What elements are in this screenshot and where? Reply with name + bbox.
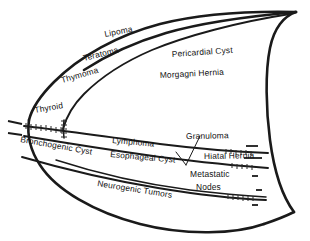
label-metastatic-nodes-line2: Nodes [196,182,221,192]
label-esophageal-cyst: Esophageal Cyst [110,149,177,165]
label-metastatic-nodes-line1: Metastatic [190,169,230,179]
label-bronchogenic-cyst: Bronchogenic Cyst [20,134,94,157]
outline-top-left-border [29,12,296,120]
label-granuloma: Granuloma [186,130,229,141]
outline-bottom-border [264,212,294,224]
label-lymphoma: Lymphoma [112,135,155,149]
label-pericardial-cyst: Pericardial Cyst [171,45,233,59]
label-hiatal-hernia: Hiatal Hernia [204,150,255,161]
label-lipoma: Lipoma [103,24,133,39]
label-morgagni-hernia: Morgagni Hernia [160,67,225,80]
label-thymoma: Thymoma [60,65,100,85]
mediastinum-svg-canvas: Lipoma Teratoma Thymoma Thyroid Pericard… [0,0,310,241]
outline-right-border [267,12,296,212]
mediastinum-diagram: Lipoma Teratoma Thymoma Thyroid Pericard… [0,0,310,241]
